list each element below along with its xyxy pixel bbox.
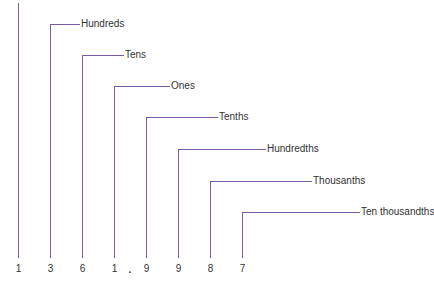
place-line-7 [210, 181, 211, 258]
place-label: Hundreds [81, 18, 124, 30]
decimal-point: . [129, 264, 132, 276]
place-label: Hundredths [267, 143, 319, 155]
place-label: Thousanths [313, 175, 365, 187]
place-line-2 [50, 24, 51, 258]
place-line-6 [178, 149, 179, 258]
leader-line-2 [50, 24, 80, 25]
place-label: Tenths [219, 111, 248, 123]
digit: 6 [80, 263, 86, 275]
digit: 9 [176, 263, 182, 275]
place-line-3 [82, 55, 83, 258]
leader-line-4 [114, 86, 170, 87]
leader-line-3 [82, 55, 124, 56]
digit: 3 [48, 263, 54, 275]
leader-line-6 [178, 149, 266, 150]
leader-line-5 [146, 117, 218, 118]
place-label: Ones [171, 80, 195, 92]
digit: 9 [144, 263, 150, 275]
place-line-4 [114, 86, 115, 258]
place-line-1 [18, 3, 19, 258]
place-label: Ten thousandths [361, 206, 434, 218]
place-line-5 [146, 117, 147, 258]
leader-line-7 [210, 181, 312, 182]
digit: 8 [208, 263, 214, 275]
digit: 1 [112, 263, 118, 275]
place-label: Tens [125, 49, 146, 61]
place-line-8 [242, 212, 243, 258]
digit: 1 [16, 263, 22, 275]
leader-line-8 [242, 212, 360, 213]
digit: 7 [240, 263, 246, 275]
